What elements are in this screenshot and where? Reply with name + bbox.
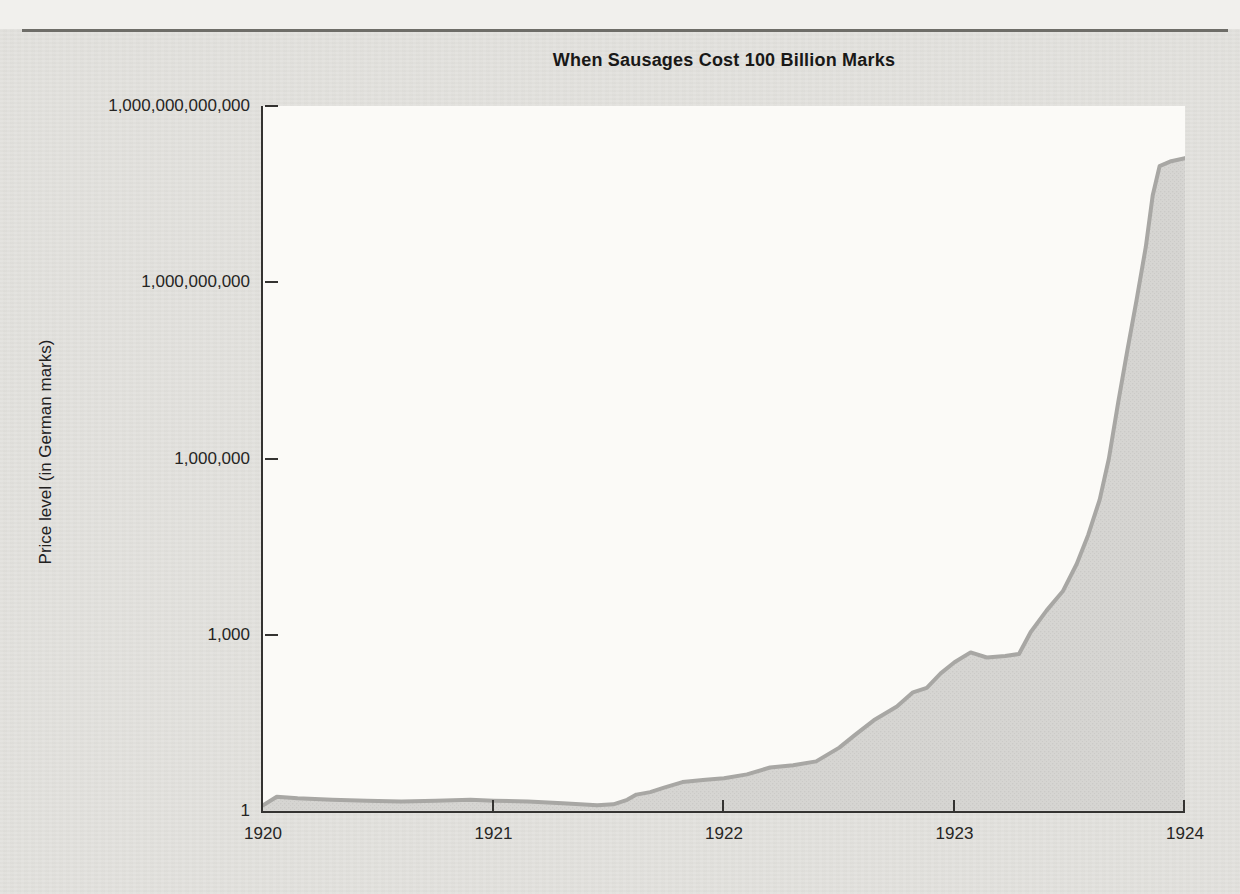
price-level-area-chart: [263, 106, 1185, 811]
y-tick-label: 1,000: [0, 624, 250, 646]
book-page: When Sausages Cost 100 Billion Marks Pri…: [0, 0, 1240, 894]
x-tick-label: 1923: [915, 823, 995, 845]
x-tick-label: 1922: [684, 823, 764, 845]
page-top-margin: [0, 0, 1240, 29]
chart-title: When Sausages Cost 100 Billion Marks: [263, 50, 1185, 71]
y-axis-title: Price level (in German marks): [36, 340, 56, 565]
x-tick-label: 1924: [1145, 823, 1225, 845]
plot-area: [261, 106, 1185, 813]
y-tick-label: 1,000,000,000: [0, 271, 250, 293]
y-tick-label: 1,000,000,000,000: [0, 95, 250, 117]
x-tick-label: 1920: [223, 823, 303, 845]
x-tick-label: 1921: [454, 823, 534, 845]
figure-top-rule: [22, 29, 1228, 32]
y-tick-label: 1: [0, 800, 250, 822]
price-area-fill: [263, 158, 1185, 811]
